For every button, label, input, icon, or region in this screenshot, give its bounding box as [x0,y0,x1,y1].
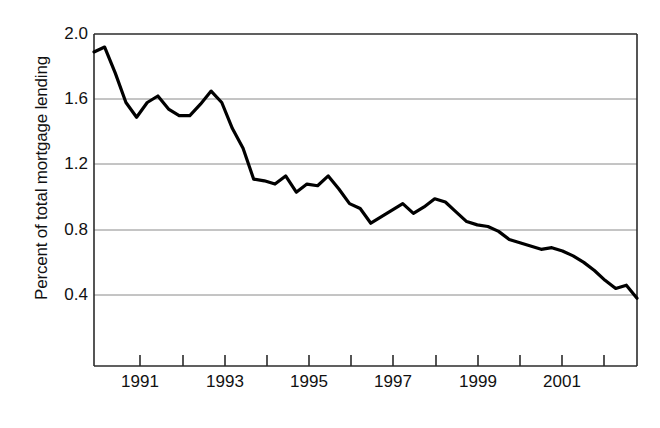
x-tick-label: 1993 [206,372,244,392]
chart-figure: Percent of total mortgage lending 2.0 1.… [0,0,660,428]
data-series-line [94,47,637,298]
gridlines [94,99,637,295]
x-tick-label: 2001 [543,372,581,392]
x-tick-label: 1991 [121,372,159,392]
plot-canvas [0,0,660,428]
x-tick-label: 1997 [374,372,412,392]
x-axis-ticks [140,355,604,366]
x-tick-label: 1995 [290,372,328,392]
x-tick-label: 1999 [459,372,497,392]
plot-frame [94,34,637,366]
